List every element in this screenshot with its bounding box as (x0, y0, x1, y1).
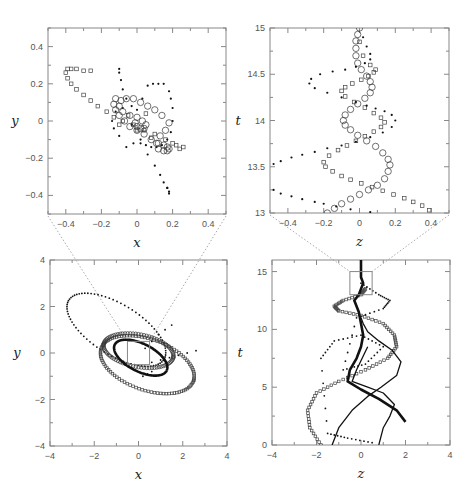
data-point-dot (165, 350, 167, 352)
data-point-square (372, 130, 376, 134)
data-point-dot (314, 87, 316, 89)
data-point-dot (322, 354, 324, 356)
data-point-dot (325, 352, 327, 354)
data-point-circle (356, 191, 362, 197)
data-point-dot (139, 139, 141, 141)
data-point-dot (145, 144, 147, 146)
data-point-dot (135, 312, 137, 314)
data-point-square (117, 123, 121, 127)
data-point-dot (373, 311, 375, 313)
x-axis-label: x (135, 467, 143, 482)
data-point-dot (368, 360, 370, 362)
data-point-dot (320, 357, 322, 359)
data-point-dot (152, 83, 154, 85)
data-point-dot (379, 344, 381, 346)
data-point-circle (353, 53, 359, 59)
data-point-dot (355, 141, 357, 143)
data-point-square (323, 388, 326, 391)
data-point-square (306, 409, 309, 412)
x-tick-label: 0 (357, 218, 362, 228)
data-point-dot (159, 362, 161, 364)
data-point-dot (353, 366, 355, 368)
data-point-square (345, 144, 349, 148)
data-point-dot (355, 101, 357, 103)
data-point-square (383, 359, 386, 362)
data-point-dot (153, 328, 155, 330)
data-point-dot (161, 361, 163, 363)
data-point-square (307, 412, 310, 415)
data-point-square (368, 63, 372, 67)
data-point-circle (159, 112, 165, 118)
y-tick-label: 0 (262, 440, 267, 450)
data-point-square (174, 143, 178, 147)
data-point-square (309, 403, 312, 406)
y-tick-label: 10 (257, 324, 267, 334)
y-tick-label: 0 (38, 116, 43, 126)
data-point-circle (385, 168, 391, 174)
data-point-square (340, 89, 344, 93)
data-point-dot (66, 304, 68, 306)
data-point-dot (378, 309, 380, 311)
data-point-dot (120, 302, 122, 304)
data-point-dot (373, 354, 375, 356)
zoom-connector-left (48, 216, 127, 341)
data-point-square (372, 365, 375, 368)
x-tick-label: 4 (224, 451, 229, 461)
data-point-square (178, 147, 182, 151)
data-point-dot (301, 198, 303, 200)
data-point-dot (138, 314, 140, 316)
y-tick-label: 13.5 (247, 162, 265, 172)
data-point-dot (94, 293, 96, 295)
data-point-dot (165, 354, 167, 356)
plot-frame (48, 28, 226, 214)
data-point-square (312, 432, 315, 435)
y-tick-label: 4 (40, 255, 45, 265)
data-point-dot (66, 306, 68, 308)
data-point-dot (125, 146, 127, 148)
data-point-circle (358, 66, 364, 72)
x-tick-label: −0.4 (57, 219, 75, 229)
data-point-circle (162, 127, 168, 133)
data-point-dot (147, 153, 149, 155)
data-point-square (343, 95, 347, 99)
data-point-dot (280, 192, 282, 194)
data-point-circle (157, 133, 163, 139)
data-point-square (314, 435, 317, 438)
data-point-square (123, 381, 126, 384)
data-point-dot (68, 300, 70, 302)
data-point-dot (361, 364, 363, 366)
data-point-dot (71, 321, 73, 323)
data-point-circle (347, 106, 353, 112)
data-point-dot (347, 337, 349, 339)
y-tick-label: 2 (40, 302, 45, 312)
data-point-circle (363, 138, 369, 144)
data-point-dot (125, 98, 127, 100)
y-tick-label: −0.4 (25, 190, 43, 200)
data-point-dot (111, 120, 113, 122)
data-point-dot (69, 298, 71, 300)
data-point-dot (314, 151, 316, 153)
data-point-dot (342, 338, 344, 340)
zoom-connector-right (150, 216, 226, 341)
data-point-dot (136, 109, 138, 111)
data-point-circle (130, 95, 136, 101)
data-point-square (336, 148, 340, 152)
data-point-dot (369, 312, 371, 314)
data-point-dot (327, 433, 329, 435)
y-tick-label: −0.2 (25, 153, 43, 163)
data-point-square (82, 93, 86, 97)
panel-bottom-left: −4−2024−4−2024xy (12, 255, 229, 482)
data-point-dot (326, 420, 328, 422)
data-point-dot (379, 349, 381, 351)
data-point-dot (96, 346, 98, 348)
y-tick-label: −2 (35, 395, 45, 405)
data-point-circle (353, 45, 359, 51)
data-point-square (345, 298, 348, 301)
x-tick-label: −4 (45, 451, 55, 461)
data-point-circle (116, 103, 122, 109)
data-point-square (345, 311, 348, 314)
y-tick-label: 5 (262, 382, 267, 392)
data-point-dot (67, 313, 69, 315)
x-tick-label: −4 (267, 450, 277, 460)
data-point-square (331, 170, 335, 174)
